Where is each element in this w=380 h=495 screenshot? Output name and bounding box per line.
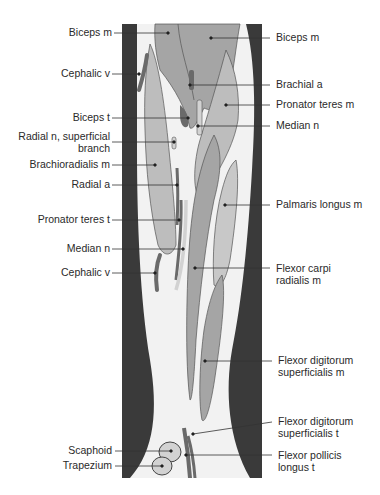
median-nerve-upper (197, 100, 202, 135)
label-flexor-digitorum-superficialis-t: Flexor digitorum superficialis t (278, 415, 353, 439)
label-radial-a: Radial a (71, 178, 110, 190)
label-radial-n-superficial-branch: Radial n, superficial branch (18, 130, 110, 154)
label-trapezium: Trapezium (63, 459, 112, 471)
label-palmaris-longus-m: Palmaris longus m (276, 198, 362, 210)
forearm-anatomy-diagram: Biceps m Cephalic v Biceps t Radial n, s… (0, 0, 380, 495)
label-brachial-a: Brachial a (276, 78, 323, 90)
label-brachioradialis-m: Brachioradialis m (29, 158, 110, 170)
brachial-artery (189, 70, 194, 90)
label-flexor-carpi-radialis-m: Flexor carpi radialis m (276, 262, 331, 286)
label-median-n-upper: Median n (276, 119, 319, 131)
label-biceps-m-left: Biceps m (69, 26, 112, 38)
label-cephalic-v-lower: Cephalic v (61, 266, 110, 278)
label-flexor-digitorum-superficialis-m: Flexor digitorum superficialis m (278, 354, 353, 378)
label-scaphoid: Scaphoid (68, 444, 112, 456)
label-cephalic-v-upper: Cephalic v (61, 67, 110, 79)
radial-artery (177, 168, 178, 225)
label-flexor-pollicis-longus-t: Flexor pollicis longus t (278, 449, 342, 473)
label-biceps-m-right: Biceps m (276, 31, 319, 43)
label-biceps-t: Biceps t (73, 111, 110, 123)
label-pronator-teres-t: Pronator teres t (38, 213, 110, 225)
label-pronator-teres-m: Pronator teres m (276, 98, 354, 110)
label-median-n-lower: Median n (67, 242, 110, 254)
